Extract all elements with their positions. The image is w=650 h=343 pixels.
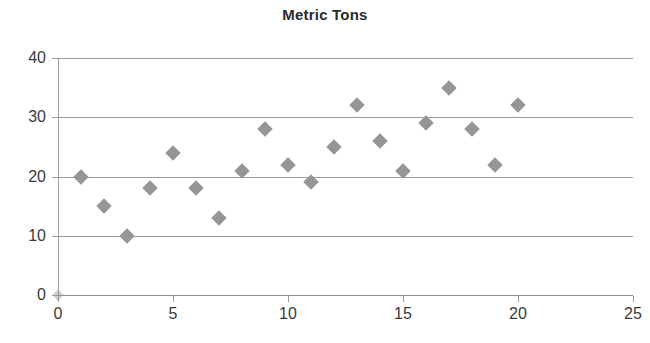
data-point[interactable] xyxy=(441,80,457,96)
gridline-y-20 xyxy=(58,177,633,178)
data-point[interactable] xyxy=(487,157,503,173)
data-point[interactable] xyxy=(52,289,63,300)
data-point[interactable] xyxy=(165,145,181,161)
data-point[interactable] xyxy=(280,157,296,173)
x-tick-label-25: 25 xyxy=(613,305,650,323)
data-point[interactable] xyxy=(257,121,273,137)
gridline-y-30 xyxy=(58,117,633,118)
x-tick-mark-10 xyxy=(288,296,289,302)
scatter-chart: Metric Tons 010203040 0510152025 xyxy=(0,0,650,343)
y-tick-label-20: 20 xyxy=(2,168,46,186)
x-tick-label-15: 15 xyxy=(383,305,423,323)
data-point[interactable] xyxy=(510,98,526,114)
data-point[interactable] xyxy=(211,210,227,226)
data-point[interactable] xyxy=(96,198,112,214)
data-point[interactable] xyxy=(188,181,204,197)
plot-area xyxy=(58,58,633,295)
data-point[interactable] xyxy=(464,121,480,137)
chart-title: Metric Tons xyxy=(0,6,650,23)
data-point[interactable] xyxy=(142,181,158,197)
gridline-y-40 xyxy=(58,58,633,59)
data-point[interactable] xyxy=(372,133,388,149)
x-tick-label-0: 0 xyxy=(38,305,78,323)
x-tick-mark-25 xyxy=(633,296,634,302)
gridline-y-10 xyxy=(58,236,633,237)
data-point[interactable] xyxy=(349,98,365,114)
data-point[interactable] xyxy=(119,228,135,244)
x-tick-label-5: 5 xyxy=(153,305,193,323)
data-point[interactable] xyxy=(326,139,342,155)
x-tick-label-20: 20 xyxy=(498,305,538,323)
data-point[interactable] xyxy=(73,169,89,185)
x-tick-label-10: 10 xyxy=(268,305,308,323)
y-tick-label-30: 30 xyxy=(2,108,46,126)
x-tick-mark-15 xyxy=(403,296,404,302)
x-tick-mark-5 xyxy=(173,296,174,302)
x-tick-mark-20 xyxy=(518,296,519,302)
y-tick-label-10: 10 xyxy=(2,227,46,245)
y-tick-label-0: 0 xyxy=(2,286,46,304)
y-tick-label-40: 40 xyxy=(2,49,46,67)
gridline-y-0 xyxy=(58,295,633,296)
